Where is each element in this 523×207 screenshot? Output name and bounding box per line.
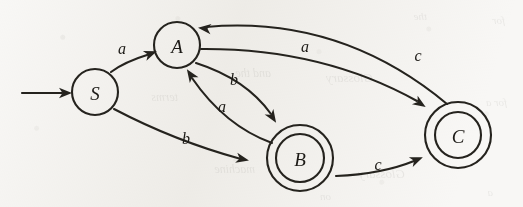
transition-label-S-a-A: a (118, 40, 126, 57)
transition-label-C-c-A: c (414, 47, 421, 64)
transition-label-S-b-B: b (182, 130, 190, 147)
arrow-head-C-c-A-glyph (197, 23, 211, 35)
states-layer: SABC (72, 22, 491, 191)
automaton-figure: fortheGlossaryand thetermsfor aGlossarym… (0, 0, 523, 207)
state-diagram: SABC abbaacc (0, 0, 523, 207)
state-A-label: A (169, 36, 183, 57)
arrow-head-B-c-C-glyph (409, 152, 425, 167)
arrow-head-B-a-A-glyph (183, 66, 199, 83)
state-B[interactable]: B (267, 125, 333, 191)
transition-label-A-b-B: b (230, 71, 238, 88)
arrow-head-A-a-C (412, 96, 429, 112)
state-C-label: C (452, 126, 465, 147)
state-B-label: B (294, 149, 306, 170)
state-C[interactable]: C (425, 102, 491, 168)
state-S-label: S (90, 83, 100, 104)
arrow-head-B-a-A (183, 66, 199, 83)
transition-label-B-c-C: c (374, 156, 381, 173)
transition-S-b-B (114, 109, 241, 159)
arrow-head-A-a-C-glyph (412, 96, 429, 112)
transition-B-a-A (192, 78, 272, 143)
transition-label-B-a-A: a (218, 98, 226, 115)
state-A[interactable]: A (154, 22, 200, 68)
arrow-head-B-c-C (409, 152, 425, 167)
state-S[interactable]: S (72, 69, 118, 115)
start-marker-layer (22, 88, 72, 98)
arrow-head-A-b-B (265, 109, 281, 126)
transition-S-a-A (111, 54, 150, 72)
arrow-head-A-b-B-glyph (265, 109, 281, 126)
arrow-head-C-c-A (197, 23, 211, 35)
transitions-layer (111, 23, 447, 176)
transition-label-A-a-C: a (301, 38, 309, 55)
